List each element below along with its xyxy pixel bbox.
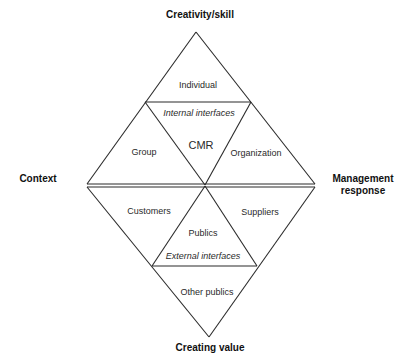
axis-label-left: Context <box>19 173 56 185</box>
label-individual: Individual <box>179 80 217 90</box>
axis-label-right: Management response <box>332 173 393 196</box>
label-other-publics: Other publics <box>180 287 233 297</box>
axis-label-bottom: Creating value <box>176 342 245 354</box>
label-publics: Publics <box>188 228 217 238</box>
label-suppliers: Suppliers <box>241 207 279 217</box>
axis-label-top: Creativity/skill <box>166 9 234 21</box>
axis-label-right-line2: response <box>332 184 393 196</box>
label-organization: Organization <box>230 148 281 158</box>
label-internal-interfaces: Internal interfaces <box>163 108 235 118</box>
label-group: Group <box>131 147 156 157</box>
label-external-interfaces: External interfaces <box>166 251 241 261</box>
axis-label-right-line1: Management <box>332 173 393 185</box>
label-cmr: CMR <box>188 139 213 152</box>
label-customers: Customers <box>127 206 171 216</box>
axis-label-left-text: Context <box>19 173 56 184</box>
